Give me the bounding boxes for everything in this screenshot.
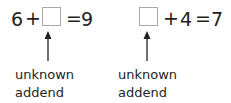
- equation-2-equals-sign: =: [195, 8, 211, 28]
- equation-1-label-line1: unknown: [15, 66, 74, 83]
- equation-2-unknown-box: [139, 7, 158, 26]
- equation-1-plus-sign: +: [25, 8, 41, 28]
- equation-2-plus-sign: +: [163, 8, 179, 28]
- equation-2-label-line1: unknown: [118, 66, 177, 83]
- equation-1-equals-sign: =: [66, 8, 82, 28]
- arrow-up-icon: [43, 31, 53, 61]
- equation-1-unknown-box: [42, 7, 61, 26]
- equation-2-right-operand: 4: [180, 9, 192, 29]
- arrow-up-icon: [142, 31, 152, 61]
- equation-1-label-line2: addend: [15, 84, 64, 101]
- equation-2-result: 7: [211, 9, 223, 29]
- equation-1-left-operand: 6: [11, 9, 23, 29]
- equation-2-label-line2: addend: [118, 84, 167, 101]
- equation-1-result: 9: [81, 9, 93, 29]
